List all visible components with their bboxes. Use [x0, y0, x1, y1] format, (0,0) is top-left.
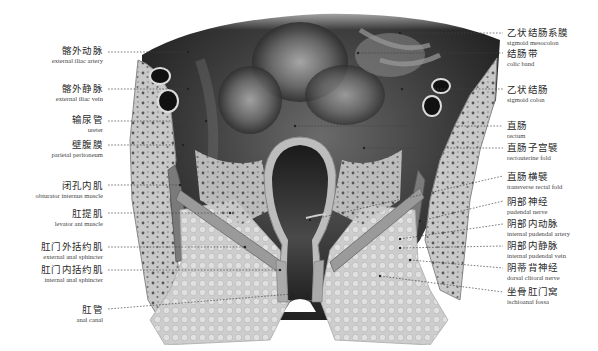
label-transverse-rectal-fold: 直肠横襞 transverse rectal fold	[507, 172, 562, 190]
label-en: external iliac artery	[52, 58, 103, 65]
label-en: obturator internus muscle	[36, 193, 103, 200]
label-en: ischioanal fossa	[507, 299, 559, 306]
label-ureter: 输尿管 ureter	[72, 115, 103, 133]
label-zh: 闭孔内肌	[36, 181, 103, 191]
label-en: external iliac vein	[56, 96, 103, 103]
leader-endpoint-dot	[244, 246, 246, 248]
label-internal-pudendal-vein: 阴部内静脉 internal pudendal vein	[507, 241, 566, 259]
label-en: sigmoid colon	[507, 97, 548, 104]
label-colic-band: 结肠带 colic band	[507, 49, 538, 67]
label-en: levator ani muscle	[55, 221, 103, 228]
leader-endpoint-dot	[309, 219, 311, 221]
label-levator-ani-muscle: 肛提肌 levator ani muscle	[55, 209, 103, 227]
leader-endpoint-dot	[229, 212, 231, 214]
label-en: anal canal	[76, 317, 103, 324]
label-sigmoid-mesocolon: 乙状结肠系膜 sigmoid mesocolon	[507, 28, 569, 46]
leader-endpoint-dot	[399, 32, 401, 34]
label-en: internal pudendal vein	[507, 253, 566, 260]
label-zh: 髂外静脉	[56, 84, 103, 94]
label-en: internal pudendal artery	[507, 231, 570, 238]
leader-endpoint-dot	[205, 120, 207, 122]
leader-endpoint-dot	[179, 184, 181, 186]
label-en: colic band	[507, 61, 538, 68]
label-en: external anal sphincter	[41, 254, 103, 261]
label-external-anal-sphincter: 肛门外括约肌 external anal sphincter	[41, 242, 103, 260]
label-zh: 乙状结肠	[507, 85, 548, 95]
label-ischioanal-fossa: 坐骨肛门窝 ischioanal fossa	[507, 287, 559, 305]
label-en: dorsal clitoral nerve	[507, 275, 560, 282]
leader-endpoint-dot	[419, 220, 421, 222]
label-zh: 肛门内括约肌	[41, 265, 103, 275]
leader-endpoint-dot	[379, 275, 381, 277]
label-internal-anal-sphincter: 肛门内括约肌 internal anal sphincter	[41, 265, 103, 283]
external-iliac-vein-right	[423, 96, 441, 116]
leader-endpoint-dot	[294, 125, 296, 127]
label-zh: 阴部内静脉	[507, 241, 566, 251]
leader-endpoint-dot	[409, 259, 411, 261]
label-obturator-internus-muscle: 闭孔内肌 obturator internus muscle	[36, 181, 103, 199]
label-zh: 直肠	[507, 121, 528, 131]
label-en: parietal peritoneum	[52, 152, 103, 159]
label-external-iliac-artery: 髂外动脉 external iliac artery	[52, 46, 103, 64]
leader-endpoint-dot	[187, 51, 189, 53]
label-zh: 结肠带	[507, 49, 538, 59]
label-rectum: 直肠 rectum	[507, 121, 528, 139]
label-zh: 髂外动脉	[52, 46, 103, 56]
label-sigmoid-colon: 乙状结肠 sigmoid colon	[507, 85, 548, 103]
label-internal-pudendal-artery: 阴部内动脉 internal pudendal artery	[507, 219, 570, 237]
internal-anal-sphincter-left	[276, 260, 288, 302]
label-zh: 直肠横襞	[507, 172, 562, 182]
label-zh: 肛门外括约肌	[41, 242, 103, 252]
label-dorsal-clitoral-nerve: 阴蒂背神经 dorsal clitoral nerve	[507, 263, 560, 281]
label-en: rectum	[507, 133, 528, 140]
label-zh: 肛提肌	[55, 209, 103, 219]
label-zh: 肛管	[76, 305, 103, 315]
leader-endpoint-dot	[182, 144, 184, 146]
label-zh: 阴部内动脉	[507, 219, 570, 229]
label-en: sigmoid mesocolon	[507, 40, 569, 47]
internal-anal-sphincter-right	[312, 260, 324, 302]
leader-endpoint-dot	[399, 247, 401, 249]
label-en: rectouterine fold	[507, 155, 559, 162]
label-en: pudendal nerve	[507, 209, 548, 216]
label-zh: 阴部神经	[507, 197, 548, 207]
leader-endpoint-dot	[401, 88, 403, 90]
label-zh: 乙状结肠系膜	[507, 28, 569, 38]
label-en: ureter	[72, 127, 103, 134]
leader-endpoint-dot	[363, 147, 365, 149]
leader-endpoint-dot	[279, 269, 281, 271]
leader-endpoint-dot	[399, 238, 401, 240]
leader-endpoint-dot	[357, 52, 359, 54]
label-zh: 直肠子宫襞	[507, 143, 559, 153]
label-zh: 输尿管	[72, 115, 103, 125]
label-rectouterine-fold: 直肠子宫襞 rectouterine fold	[507, 143, 559, 161]
anatomy-figure: 髂外动脉 external iliac artery 髂外静脉 external…	[0, 0, 598, 351]
external-iliac-vein-left	[158, 90, 178, 112]
label-zh: 阴蒂背神经	[507, 263, 560, 273]
label-external-iliac-vein: 髂外静脉 external iliac vein	[56, 84, 103, 102]
label-anal-canal: 肛管 anal canal	[76, 305, 103, 323]
external-iliac-artery-right	[432, 79, 450, 93]
label-en: transverse rectal fold	[507, 184, 562, 191]
leader-endpoint-dot	[291, 293, 293, 295]
label-zh: 壁腹膜	[52, 140, 103, 150]
label-en: internal anal sphincter	[41, 277, 103, 284]
label-parietal-peritoneum: 壁腹膜 parietal peritoneum	[52, 140, 103, 158]
label-pudendal-nerve: 阴部神经 pudendal nerve	[507, 197, 548, 215]
label-zh: 坐骨肛门窝	[507, 287, 559, 297]
leader-endpoint-dot	[187, 88, 189, 90]
external-iliac-artery-left	[150, 68, 170, 84]
